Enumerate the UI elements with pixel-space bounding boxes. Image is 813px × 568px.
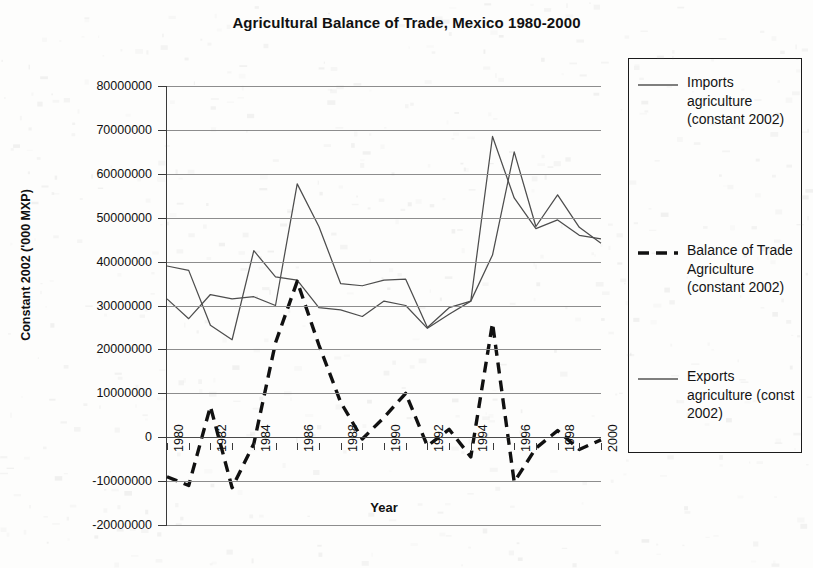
- x-axis-tick-label: 1996: [519, 424, 533, 452]
- x-axis-tick: [362, 443, 363, 450]
- x-axis-tick: [319, 443, 320, 450]
- plot-area: [167, 86, 601, 525]
- gridline: [167, 262, 601, 263]
- series-line: [167, 281, 601, 487]
- x-axis-tick: [601, 443, 602, 450]
- gridline: [167, 349, 601, 350]
- x-axis-tick: [276, 443, 277, 450]
- x-axis-tick: [449, 443, 450, 450]
- gridline: [167, 306, 601, 307]
- y-axis-tick: [158, 481, 167, 482]
- series-line: [167, 152, 601, 340]
- x-axis-tick-label: 1980: [172, 424, 186, 452]
- chart-legend: Imports agriculture (constant 2002)Balan…: [628, 58, 802, 453]
- y-axis-tick: [158, 86, 167, 87]
- gridline: [167, 218, 601, 219]
- y-axis-tick-label: -20000000: [2, 518, 152, 532]
- x-axis-tick: [384, 443, 385, 450]
- y-axis-tick-label: 0: [2, 430, 152, 444]
- y-axis-tick: [158, 349, 167, 350]
- x-axis-tick-label: 2000: [606, 424, 620, 452]
- x-axis-tick-label: 1998: [563, 424, 577, 452]
- x-axis-tick: [254, 443, 255, 450]
- y-axis-tick: [158, 306, 167, 307]
- x-axis-tick: [493, 443, 494, 450]
- legend-label: Exports agriculture (const 2002): [683, 367, 795, 423]
- legend-solid-line-icon: [637, 82, 683, 88]
- legend-label: Balance of Trade Agriculture (constant 2…: [683, 241, 795, 297]
- legend-entry[interactable]: Balance of Trade Agriculture (constant 2…: [637, 241, 795, 297]
- x-axis-tick-label: 1982: [215, 424, 229, 452]
- x-axis-tick-label: 1992: [432, 424, 446, 452]
- x-axis-title: Year: [167, 500, 601, 515]
- x-axis-tick: [232, 443, 233, 450]
- x-axis-tick: [427, 443, 428, 450]
- x-axis-tick: [167, 443, 168, 450]
- x-axis-tick: [341, 443, 342, 450]
- x-axis-tick: [579, 443, 580, 450]
- x-axis-tick: [210, 443, 211, 450]
- y-axis-tick: [158, 393, 167, 394]
- x-axis-tick: [406, 443, 407, 450]
- x-axis-zero-line: [167, 437, 601, 438]
- legend-entry[interactable]: Imports agriculture (constant 2002): [637, 73, 795, 129]
- x-axis-tick-label: 1986: [302, 424, 316, 452]
- x-axis-tick: [471, 443, 472, 450]
- x-axis-tick-label: 1988: [346, 424, 360, 452]
- x-axis-tick: [189, 443, 190, 450]
- series-line: [167, 136, 601, 327]
- x-axis-tick: [536, 443, 537, 450]
- y-axis-tick: [158, 130, 167, 131]
- gridline: [167, 393, 601, 394]
- legend-label: Imports agriculture (constant 2002): [683, 73, 795, 129]
- gridline: [167, 481, 601, 482]
- x-axis-tick: [558, 443, 559, 450]
- x-axis-tick-label: 1984: [259, 424, 273, 452]
- legend-entry[interactable]: Exports agriculture (const 2002): [637, 367, 795, 423]
- x-axis-tick-label: 1994: [476, 424, 490, 452]
- y-axis-title: Constant 2002 ('000 MXP): [19, 155, 33, 375]
- y-axis-tick: [158, 174, 167, 175]
- gridline: [167, 174, 601, 175]
- y-axis-tick-label: 70000000: [2, 123, 152, 137]
- y-axis-tick-label: 10000000: [2, 386, 152, 400]
- x-axis-tick: [297, 443, 298, 450]
- y-axis-tick: [158, 218, 167, 219]
- legend-solid-line-icon: [637, 376, 683, 382]
- legend-dashed-line-icon: [637, 250, 683, 256]
- y-axis-tick-label: 80000000: [2, 79, 152, 93]
- y-axis-tick: [158, 262, 167, 263]
- gridline: [167, 130, 601, 131]
- y-axis-tick-label: -10000000: [2, 474, 152, 488]
- y-axis-tick: [158, 525, 167, 526]
- gridline: [167, 525, 601, 526]
- x-axis-tick: [514, 443, 515, 450]
- gridline: [167, 86, 601, 87]
- x-axis-tick-label: 1990: [389, 424, 403, 452]
- y-axis-tick: [158, 437, 167, 438]
